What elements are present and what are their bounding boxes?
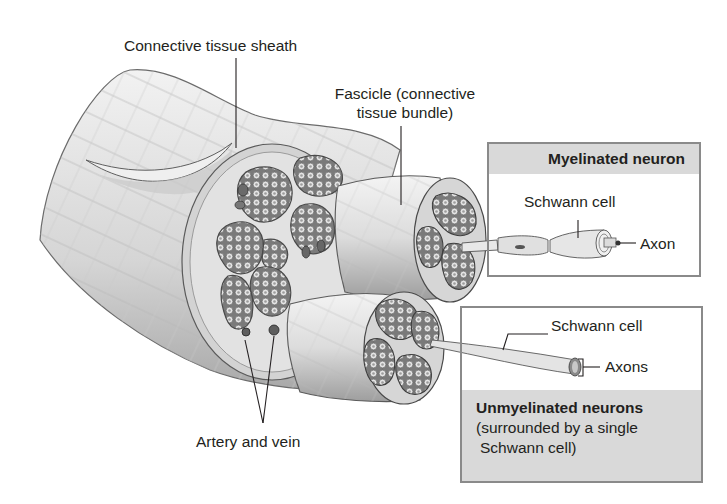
vessel-icon [238, 184, 248, 196]
label-artery-and-vein: Artery and vein [196, 432, 300, 451]
unmyelinated-box-text: Unmyelinated neurons (surrounded by a si… [476, 398, 643, 458]
fascicle-lower-cylinder [287, 292, 444, 404]
unmyelinated-desc-line1: (surrounded by a single [476, 418, 643, 438]
label-unmyelinated-schwann-cell: Schwann cell [551, 316, 642, 335]
label-fascicle-line1: Fascicle (connective [330, 84, 480, 103]
label-axon: Axon [640, 234, 675, 253]
label-axons: Axons [605, 357, 648, 376]
label-myelinated-schwann-cell: Schwann cell [524, 192, 615, 211]
myelinated-neuron-heading: Myelinated neuron [489, 144, 699, 174]
unmyelinated-desc-line2: Schwann cell) [476, 438, 643, 458]
label-fascicle: Fascicle (connective tissue bundle) [330, 84, 480, 122]
fascicle-upper-cylinder [335, 176, 486, 302]
label-fascicle-line2: tissue bundle) [330, 103, 480, 122]
unmyelinated-neuron-heading: Unmyelinated neurons [476, 398, 643, 418]
nerve-diagram: Connective tissue sheath Fascicle (conne… [0, 0, 727, 504]
label-connective-tissue-sheath: Connective tissue sheath [124, 36, 297, 55]
